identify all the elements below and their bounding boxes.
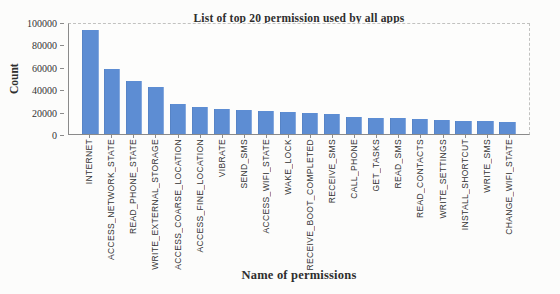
x-tick-mark xyxy=(244,135,245,138)
bar-install_shortcut xyxy=(455,121,472,134)
y-tick-label: 0 xyxy=(52,130,57,141)
x-tick-mark xyxy=(420,135,421,138)
y-tick-mark xyxy=(60,113,64,114)
bar-access_wifi_state xyxy=(258,111,275,134)
bar-access_network_state xyxy=(104,69,121,134)
y-tick-label: 100000 xyxy=(27,18,57,29)
x-axis-label: Name of permissions xyxy=(68,268,530,283)
x-tick-cell: CALL_PHONE xyxy=(346,139,363,267)
x-tick-cell: WRITE_SMS xyxy=(478,139,495,267)
bar-change_wifi_state xyxy=(499,122,516,134)
plot-area xyxy=(68,23,530,135)
x-tick-label: VIBRATE xyxy=(217,139,227,177)
x-tick-mark xyxy=(89,135,90,138)
x-tick-mark xyxy=(310,135,311,138)
bar-receive_boot_completed xyxy=(302,113,319,134)
x-tick-label: WRITE_SMS xyxy=(482,139,492,193)
bar-write_settings xyxy=(434,120,451,134)
x-tick-mark xyxy=(443,135,444,138)
x-tick-label: SEND_SMS xyxy=(239,139,249,189)
bar-series xyxy=(69,24,529,134)
x-tick-cell: WRITE_EXTERNAL_STORAGE xyxy=(147,139,164,267)
bar-call_phone xyxy=(346,117,363,134)
x-tick-cell: READ_CONTACTS xyxy=(412,139,429,267)
x-tick-cell: RECEIVE_SMS xyxy=(324,139,341,267)
x-tick-label: ACCESS_NETWORK_STATE xyxy=(106,139,116,260)
x-tick-label: WAKE_LOCK xyxy=(283,139,293,195)
bar-vibrate xyxy=(214,109,231,134)
x-axis-ticks: INTERNETACCESS_NETWORK_STATEREAD_PHONE_S… xyxy=(68,139,530,267)
x-tick-label: INTERNET xyxy=(84,139,94,184)
x-tick-cell: SEND_SMS xyxy=(236,139,253,267)
bar-write_external_storage xyxy=(148,87,165,134)
bar-chart-figure: List of top 20 permission used by all ap… xyxy=(0,0,560,294)
x-tick-cell: ACCESS_WIFI_STATE xyxy=(258,139,275,267)
x-tick-label: INSTALL_SHORTCUT xyxy=(460,139,470,230)
x-tick-cell: READ_SMS xyxy=(390,139,407,267)
x-tick-label: READ_SMS xyxy=(393,139,403,189)
x-tick-label: GET_TASKS xyxy=(371,139,381,192)
x-tick-mark xyxy=(178,135,179,138)
x-tick-mark xyxy=(111,135,112,138)
x-tick-mark xyxy=(155,135,156,138)
x-tick-cell: ACCESS_FINE_LOCATION xyxy=(191,139,208,267)
bar-wake_lock xyxy=(280,112,297,134)
y-tick-label: 40000 xyxy=(32,85,57,96)
x-tick-cell: VIBRATE xyxy=(213,139,230,267)
bar-receive_sms xyxy=(324,114,341,134)
bar-get_tasks xyxy=(368,118,385,135)
y-tick-mark xyxy=(60,90,64,91)
x-tick-label: ACCESS_FINE_LOCATION xyxy=(195,139,205,253)
x-tick-label: CHANGE_WIFI_STATE xyxy=(504,139,514,235)
y-tick-mark xyxy=(60,68,64,69)
x-tick-mark xyxy=(354,135,355,138)
x-tick-cell: READ_PHONE_STATE xyxy=(125,139,142,267)
y-tick-mark xyxy=(60,45,64,46)
x-tick-mark xyxy=(200,135,201,138)
bar-read_sms xyxy=(390,118,407,134)
x-tick-cell: INTERNET xyxy=(81,139,98,267)
x-tick-mark xyxy=(487,135,488,138)
x-tick-label: RECEIVE_BOOT_COMPLETED xyxy=(305,139,315,270)
x-tick-mark xyxy=(266,135,267,138)
y-axis-ticks: 020000400006000080000100000 xyxy=(0,23,64,135)
x-tick-label: WRITE_EXTERNAL_STORAGE xyxy=(150,139,160,270)
x-tick-label: READ_PHONE_STATE xyxy=(128,139,138,234)
x-tick-mark xyxy=(465,135,466,138)
x-tick-cell: WAKE_LOCK xyxy=(280,139,297,267)
x-tick-mark xyxy=(376,135,377,138)
x-tick-label: ACCESS_COARSE_LOCATION xyxy=(173,139,183,270)
x-tick-mark xyxy=(332,135,333,138)
x-tick-cell: WRITE_SETTINGS xyxy=(434,139,451,267)
y-tick-label: 80000 xyxy=(32,40,57,51)
x-tick-mark xyxy=(509,135,510,138)
bar-access_coarse_location xyxy=(170,104,187,134)
x-tick-label: ACCESS_WIFI_STATE xyxy=(261,139,271,233)
x-tick-label: RECEIVE_SMS xyxy=(327,139,337,203)
y-tick-mark xyxy=(60,23,64,24)
bar-write_sms xyxy=(477,121,494,134)
x-tick-mark xyxy=(133,135,134,138)
x-tick-label: WRITE_SETTINGS xyxy=(438,139,448,219)
bar-internet xyxy=(82,30,99,135)
y-tick-label: 20000 xyxy=(32,107,57,118)
x-tick-cell: RECEIVE_BOOT_COMPLETED xyxy=(302,139,319,267)
x-tick-cell: ACCESS_NETWORK_STATE xyxy=(103,139,120,267)
x-tick-cell: CHANGE_WIFI_STATE xyxy=(500,139,517,267)
bar-read_contacts xyxy=(412,119,429,134)
y-tick-label: 60000 xyxy=(32,62,57,73)
y-tick-mark xyxy=(60,135,64,136)
bar-read_phone_state xyxy=(126,81,143,134)
x-tick-label: CALL_PHONE xyxy=(349,139,359,199)
x-tick-mark xyxy=(288,135,289,138)
bar-send_sms xyxy=(236,110,253,134)
bar-access_fine_location xyxy=(192,107,209,135)
x-tick-mark xyxy=(398,135,399,138)
x-tick-cell: INSTALL_SHORTCUT xyxy=(456,139,473,267)
x-tick-cell: GET_TASKS xyxy=(368,139,385,267)
x-tick-cell: ACCESS_COARSE_LOCATION xyxy=(169,139,186,267)
x-tick-mark xyxy=(222,135,223,138)
x-tick-label: READ_CONTACTS xyxy=(415,139,425,218)
